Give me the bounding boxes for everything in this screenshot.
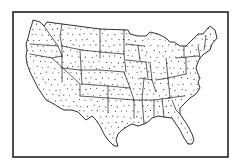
us-map	[0, 0, 240, 164]
map-background	[0, 0, 240, 164]
